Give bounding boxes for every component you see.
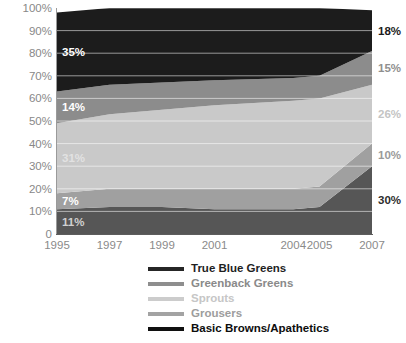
legend-item[interactable]: Basic Browns/Apathetics	[148, 321, 388, 336]
y-axis-tick-label: 60%	[29, 92, 52, 104]
x-axis-line	[56, 234, 373, 235]
legend-item-label: Greenback Greens	[191, 277, 293, 290]
y-axis-tick-label: 100%	[23, 2, 52, 14]
legend-swatch-icon	[148, 327, 184, 331]
series-value-label-left: 14%	[62, 101, 85, 113]
y-axis-tick-label: 30%	[29, 160, 52, 172]
x-axis-tick-label: 2001	[202, 238, 228, 252]
y-axis-tick-label: 80%	[29, 47, 52, 59]
legend-item[interactable]: Greenback Greens	[148, 276, 388, 291]
y-axis-tick-label: 90%	[29, 25, 52, 37]
x-axis-tick-label: 2005	[307, 238, 333, 252]
legend-item-label: Sprouts	[191, 292, 234, 305]
series-value-label-left: 31%	[62, 152, 85, 164]
legend-item[interactable]: Grousers	[148, 306, 388, 321]
series-value-label-right: 26%	[378, 108, 401, 120]
plot-area	[57, 8, 372, 234]
series-value-label-left: 11%	[62, 216, 84, 228]
y-axis: 100%90%80%70%60%50%40%30%20%10%0	[0, 0, 52, 243]
y-axis-tick-label: 50%	[29, 115, 52, 127]
x-axis-tick-label: 1999	[149, 238, 175, 252]
series-value-label-right: 10%	[378, 149, 401, 161]
x-axis-tick-label: 1997	[97, 238, 123, 252]
legend-item-label: Grousers	[191, 307, 242, 320]
series-value-label-left: 7%	[62, 195, 79, 207]
y-axis-tick-label: 40%	[29, 138, 52, 150]
stacked-area-chart: 100%90%80%70%60%50%40%30%20%10%0 1995199…	[0, 0, 406, 343]
legend-swatch-icon	[148, 297, 184, 301]
legend-swatch-icon	[148, 312, 184, 316]
legend-item-label: True Blue Greens	[191, 262, 286, 275]
series-value-label-right: 18%	[378, 25, 401, 37]
series-value-label-right: 30%	[378, 194, 401, 206]
legend-item[interactable]: True Blue Greens	[148, 261, 388, 276]
x-axis: 1995199719992001200420052007	[0, 238, 406, 254]
plot-svg	[57, 8, 372, 234]
x-axis-tick-label: 2004	[280, 238, 306, 252]
legend-item-label: Basic Browns/Apathetics	[191, 322, 329, 335]
legend-item[interactable]: Sprouts	[148, 291, 388, 306]
chart-legend: True Blue GreensGreenback GreensSproutsG…	[148, 261, 388, 336]
y-axis-tick-label: 70%	[29, 70, 52, 82]
legend-swatch-icon	[148, 267, 184, 271]
series-value-label-left: 35%	[62, 46, 85, 58]
legend-swatch-icon	[148, 282, 184, 286]
y-axis-tick-label: 10%	[29, 205, 52, 217]
x-axis-tick-label: 2007	[359, 238, 385, 252]
series-value-label-right: 15%	[378, 62, 401, 74]
x-axis-tick-label: 1995	[44, 238, 70, 252]
y-axis-tick-label: 20%	[29, 183, 52, 195]
